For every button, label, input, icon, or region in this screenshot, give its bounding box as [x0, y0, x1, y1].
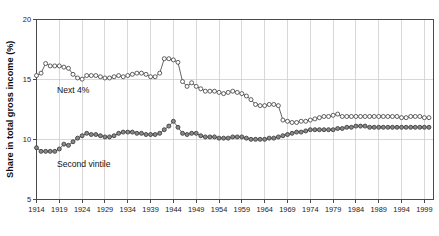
data-point — [235, 135, 239, 139]
data-point — [48, 149, 52, 153]
data-point — [295, 130, 299, 134]
data-point — [295, 120, 299, 124]
data-point — [267, 136, 271, 140]
data-point — [349, 125, 353, 129]
data-point — [422, 116, 426, 120]
data-point — [85, 74, 89, 78]
data-point — [98, 75, 102, 79]
data-point — [395, 114, 399, 118]
data-point — [162, 57, 166, 61]
data-point — [413, 114, 417, 118]
line-chart: 5101520191419191924192919341939194419491… — [0, 0, 439, 236]
data-point — [53, 149, 57, 153]
data-point — [354, 124, 358, 128]
data-point — [340, 114, 344, 118]
data-point — [317, 128, 321, 132]
data-point — [199, 87, 203, 91]
data-point — [35, 74, 39, 78]
x-tick-label: 1959 — [234, 205, 250, 214]
data-point — [231, 135, 235, 139]
data-point — [313, 128, 317, 132]
data-point — [386, 114, 390, 118]
data-point — [190, 81, 194, 85]
chart-figure: 5101520191419191924192919341939194419491… — [0, 0, 439, 236]
data-point — [322, 114, 326, 118]
data-point — [308, 118, 312, 122]
data-point — [240, 92, 244, 96]
data-point — [57, 147, 61, 151]
data-point — [226, 136, 230, 140]
data-point — [139, 71, 143, 75]
data-point — [181, 131, 185, 135]
data-point — [194, 84, 198, 88]
data-point — [176, 125, 180, 129]
data-point — [322, 128, 326, 132]
x-tick-label: 1924 — [74, 205, 90, 214]
data-point — [258, 137, 262, 141]
data-point — [290, 120, 294, 124]
data-point — [139, 131, 143, 135]
data-point — [76, 76, 80, 80]
data-point — [94, 133, 98, 137]
data-point — [368, 125, 372, 129]
data-point — [327, 128, 331, 132]
data-point — [418, 125, 422, 129]
data-point — [418, 114, 422, 118]
data-point — [89, 133, 93, 137]
data-point — [39, 149, 43, 153]
data-point — [217, 90, 221, 94]
data-point — [162, 128, 166, 132]
data-point — [263, 104, 267, 108]
y-axis-label: Share in total gross income (%) — [5, 41, 15, 178]
data-point — [331, 128, 335, 132]
data-point — [212, 135, 216, 139]
data-point — [409, 125, 413, 129]
data-point — [267, 102, 271, 106]
x-tick-label: 1939 — [142, 205, 158, 214]
data-point — [71, 140, 75, 144]
data-point — [226, 90, 230, 94]
data-point — [377, 125, 381, 129]
data-point — [386, 125, 390, 129]
x-tick-label: 1929 — [97, 205, 113, 214]
data-point — [171, 119, 175, 123]
data-point — [185, 133, 189, 137]
data-point — [153, 133, 157, 137]
data-point — [130, 130, 134, 134]
data-point — [272, 102, 276, 106]
data-point — [400, 116, 404, 120]
data-point — [413, 125, 417, 129]
data-point — [331, 113, 335, 117]
data-point — [76, 136, 80, 140]
data-point — [181, 80, 185, 84]
data-point — [222, 136, 226, 140]
data-point — [194, 131, 198, 135]
data-point — [345, 114, 349, 118]
data-point — [57, 64, 61, 68]
data-point — [400, 125, 404, 129]
data-point — [290, 131, 294, 135]
data-point — [158, 71, 162, 75]
data-point — [249, 137, 253, 141]
data-point — [354, 114, 358, 118]
data-point — [66, 66, 70, 70]
data-point — [112, 134, 116, 138]
data-point — [121, 130, 125, 134]
data-point — [363, 124, 367, 128]
data-point — [422, 125, 426, 129]
data-point — [304, 129, 308, 133]
data-point — [144, 133, 148, 137]
x-tick-label: 1914 — [28, 205, 44, 214]
data-point — [285, 133, 289, 137]
data-point — [404, 116, 408, 120]
data-point — [103, 76, 107, 80]
data-point — [208, 135, 212, 139]
data-point — [299, 130, 303, 134]
data-point — [44, 62, 48, 66]
data-point — [281, 118, 285, 122]
data-point — [427, 125, 431, 129]
x-tick-label: 1984 — [348, 205, 364, 214]
data-point — [317, 116, 321, 120]
data-point — [167, 124, 171, 128]
x-tick-label: 1979 — [325, 205, 341, 214]
